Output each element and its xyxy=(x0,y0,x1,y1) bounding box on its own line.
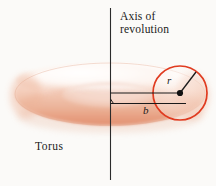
radius-r-label: r xyxy=(167,74,171,87)
axis-of-revolution-label: Axis ofrevolution xyxy=(120,10,169,36)
torus-diagram: Axis ofrevolution Torus r b xyxy=(0,0,216,186)
torus-left-end-shade xyxy=(10,74,42,118)
distance-b-label: b xyxy=(143,104,149,117)
torus-figure-svg xyxy=(0,0,216,186)
axis-label-line2: revolution xyxy=(120,23,169,35)
axis-label-line1: Axis of xyxy=(120,10,156,22)
circle-center-dot xyxy=(177,90,183,96)
torus-label: Torus xyxy=(35,140,64,153)
